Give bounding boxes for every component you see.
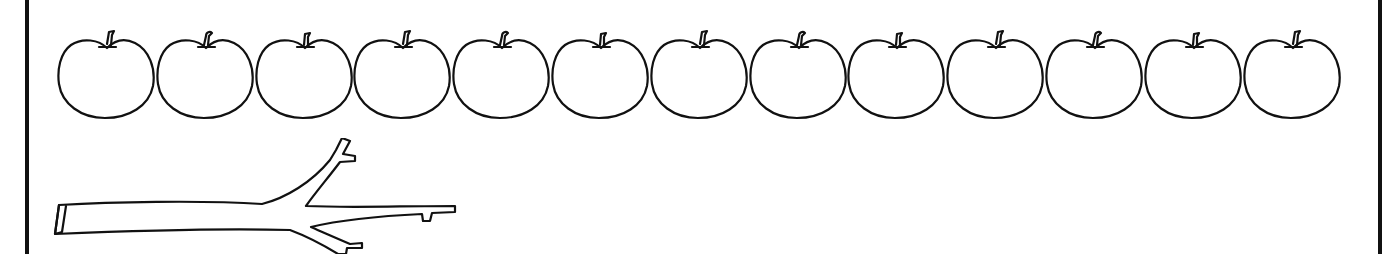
frame-right-border	[1378, 0, 1382, 254]
apple-icon	[946, 28, 1045, 123]
branch-icon	[50, 138, 470, 254]
apple-icon	[57, 28, 156, 123]
apple-icon	[353, 28, 452, 123]
apple-row	[57, 28, 1341, 123]
apple-icon	[1045, 28, 1144, 123]
frame-left-border	[25, 0, 29, 254]
apple-icon	[650, 28, 749, 123]
apple-icon	[255, 28, 354, 123]
apple-icon	[749, 28, 848, 123]
apple-icon	[847, 28, 946, 123]
apple-icon	[1144, 28, 1243, 123]
apple-icon	[551, 28, 650, 123]
apple-icon	[156, 28, 255, 123]
apple-icon	[1243, 28, 1342, 123]
apple-icon	[452, 28, 551, 123]
